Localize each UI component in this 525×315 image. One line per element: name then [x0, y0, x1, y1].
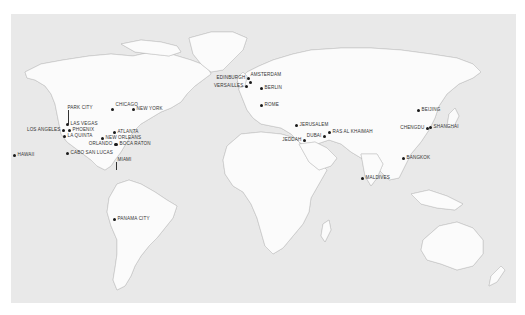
new-zealand-shape — [489, 266, 505, 286]
south-america-shape — [107, 180, 177, 290]
map-marker-berlin[interactable]: BERLIN — [260, 85, 282, 91]
location-dot-icon — [260, 104, 263, 107]
location-label: PANAMA CITY — [118, 216, 150, 222]
australia-shape — [421, 222, 483, 270]
location-label: BOCA RATON — [120, 141, 151, 147]
map-marker-new-york[interactable]: NEW YORK — [132, 106, 163, 112]
map-marker-la-quinta[interactable]: LA QUINTA — [63, 133, 93, 139]
location-label: ROME — [265, 102, 279, 108]
location-dot-icon — [295, 124, 298, 127]
location-dot-icon — [13, 154, 16, 157]
india-shape — [361, 154, 383, 186]
map-marker-maldives[interactable]: MALDIVES — [361, 175, 390, 181]
location-label: MIAMI — [118, 157, 132, 163]
map-marker-dubai[interactable]: DUBAI — [307, 133, 326, 139]
map-marker-edinburgh[interactable]: EDINBURGH — [217, 75, 250, 81]
location-label: CHENGDU — [400, 125, 424, 131]
location-dot-icon — [101, 137, 104, 140]
map-marker-rome[interactable]: ROME — [260, 102, 279, 108]
arctic-islands-shape — [121, 40, 181, 56]
location-label: JEDDAH — [282, 137, 301, 143]
map-marker-jerusalem[interactable]: JERUSALEM — [295, 122, 328, 128]
location-label: PARK CITY — [68, 105, 93, 111]
southeast-asia-islands-shape — [411, 190, 463, 210]
location-dot-icon — [328, 131, 331, 134]
location-label: BEIJING — [422, 107, 441, 113]
location-dot-icon — [361, 177, 364, 180]
location-dot-icon — [63, 135, 66, 138]
location-dot-icon — [62, 129, 65, 132]
world-map-landmasses — [11, 14, 516, 303]
location-label: HAWAII — [18, 152, 35, 158]
miami-leader-line — [116, 162, 117, 170]
map-marker-jeddah[interactable]: JEDDAH — [282, 137, 306, 143]
location-label: ORLANDO — [89, 141, 113, 147]
location-dot-icon — [66, 123, 69, 126]
location-label: MALDIVES — [366, 175, 390, 181]
location-dot-icon — [249, 81, 252, 84]
location-dot-icon — [417, 109, 420, 112]
map-marker-boca-raton[interactable]: BOCA RATON — [115, 141, 151, 147]
location-dot-icon — [111, 108, 114, 111]
location-label: CABO SAN LUCAS — [71, 150, 113, 156]
location-label: BANGKOK — [407, 155, 431, 161]
map-marker-park-city[interactable]: PARK CITY — [66, 105, 93, 111]
location-dot-icon — [303, 139, 306, 142]
location-label: JERUSALEM — [300, 122, 329, 128]
location-label: VERSAILLES — [214, 83, 244, 89]
location-label: AMSTERDAM — [251, 72, 282, 78]
map-marker-versailles[interactable]: VERSAILLES — [214, 83, 248, 89]
map-marker-ras-al-khaimah[interactable]: RAS AL KHAIMAH — [328, 129, 373, 135]
location-label: RAS AL KHAIMAH — [333, 129, 373, 135]
madagascar-shape — [321, 220, 331, 242]
location-label: BERLIN — [265, 85, 283, 91]
map-marker-amsterdam-dot[interactable] — [249, 79, 252, 85]
map-marker-orlando[interactable]: ORLANDO — [89, 141, 117, 147]
location-dot-icon — [429, 126, 432, 129]
map-marker-chengdu[interactable]: CHENGDU — [400, 125, 429, 131]
location-label: LA QUINTA — [68, 133, 93, 139]
map-marker-shanghai[interactable]: SHANGHAI — [429, 124, 459, 130]
map-marker-cabo-san-lucas[interactable]: CABO SAN LUCAS — [66, 150, 113, 156]
map-marker-panama-city[interactable]: PANAMA CITY — [113, 216, 150, 222]
location-dot-icon — [402, 157, 405, 160]
location-label: DUBAI — [307, 133, 322, 139]
location-dot-icon — [113, 131, 116, 134]
map-marker-hawaii[interactable]: HAWAII — [13, 152, 34, 158]
location-dot-icon — [68, 129, 71, 132]
location-dot-icon — [115, 143, 118, 146]
location-label: SHANGHAI — [434, 124, 459, 130]
map-marker-amsterdam[interactable]: AMSTERDAM — [249, 72, 281, 78]
location-dot-icon — [113, 218, 116, 221]
map-marker-miami[interactable]: MIAMI — [116, 157, 132, 163]
location-dot-icon — [260, 87, 263, 90]
location-dot-icon — [66, 152, 69, 155]
location-label: EDINBURGH — [217, 75, 246, 81]
location-dot-icon — [132, 108, 135, 111]
location-dot-icon — [323, 135, 326, 138]
location-label: NEW YORK — [137, 106, 163, 112]
location-label: LOS ANGELES — [27, 127, 61, 133]
map-marker-los-angeles[interactable]: LOS ANGELES — [27, 127, 65, 133]
map-marker-beijing[interactable]: BEIJING — [417, 107, 440, 113]
location-dot-icon — [245, 85, 248, 88]
map-marker-bangkok[interactable]: BANGKOK — [402, 155, 430, 161]
world-map: PARK CITY LAS VEGAS PHOENIX LOS ANGELES … — [11, 14, 516, 303]
